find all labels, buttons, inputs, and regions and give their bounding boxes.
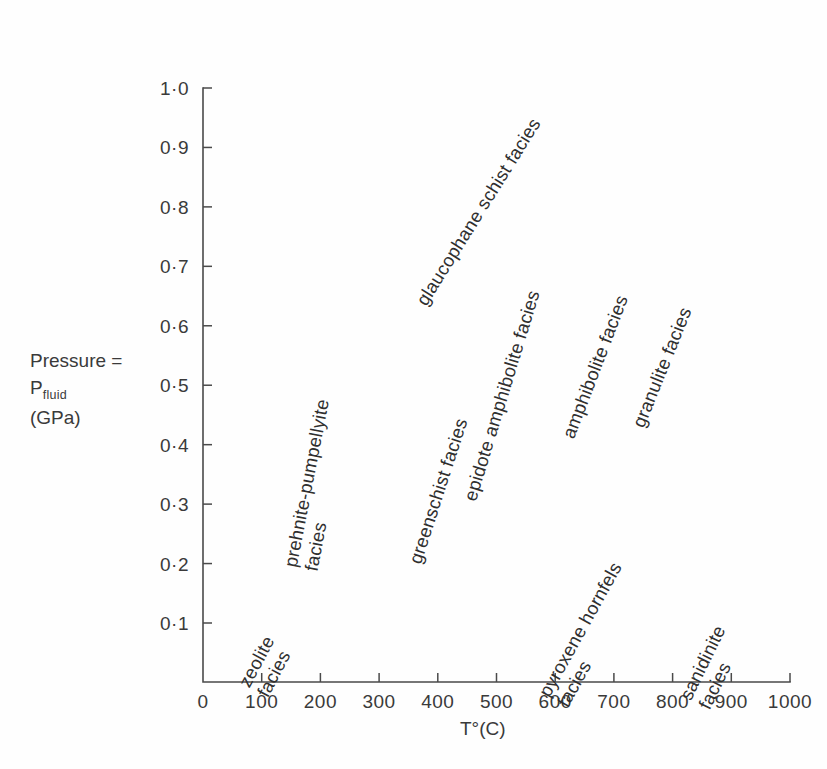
x-tick-label: 300 — [362, 691, 395, 712]
y-tick-label: 0·3 — [160, 494, 189, 515]
y-axis-title-line1: Pressure = — [30, 348, 122, 375]
y-axis-title-line2: Pfluid — [30, 375, 122, 405]
y-tick-label: 0·7 — [160, 256, 189, 277]
facies-diagram-page: 01002003004005006007008009001000 0·10·20… — [0, 0, 827, 769]
x-axis-title: T°(C) — [460, 716, 506, 743]
x-tick-label: 700 — [597, 691, 630, 712]
y-tick-label: 0·5 — [160, 375, 189, 396]
y-axis-ticks: 0·10·20·30·40·50·60·70·80·91·0 — [160, 78, 212, 634]
x-tick-label: 0 — [197, 691, 208, 712]
y-axis-title-units: (GPa) — [30, 405, 122, 432]
y-axis-title: Pressure = Pfluid (GPa) — [30, 348, 122, 431]
y-axis-title-symbol: P — [30, 377, 43, 398]
y-axis-title-subscript: fluid — [43, 388, 67, 402]
x-tick-label: 400 — [421, 691, 454, 712]
y-tick-label: 0·6 — [160, 316, 189, 337]
y-tick-label: 0·1 — [160, 613, 189, 634]
x-tick-label: 500 — [480, 691, 513, 712]
y-tick-label: 0·4 — [160, 435, 189, 456]
y-tick-label: 0·8 — [160, 197, 189, 218]
x-tick-label: 200 — [304, 691, 337, 712]
x-tick-label: 1000 — [768, 691, 812, 712]
y-tick-label: 1·0 — [160, 78, 189, 99]
y-tick-label: 0·9 — [160, 137, 189, 158]
y-tick-label: 0·2 — [160, 554, 189, 575]
